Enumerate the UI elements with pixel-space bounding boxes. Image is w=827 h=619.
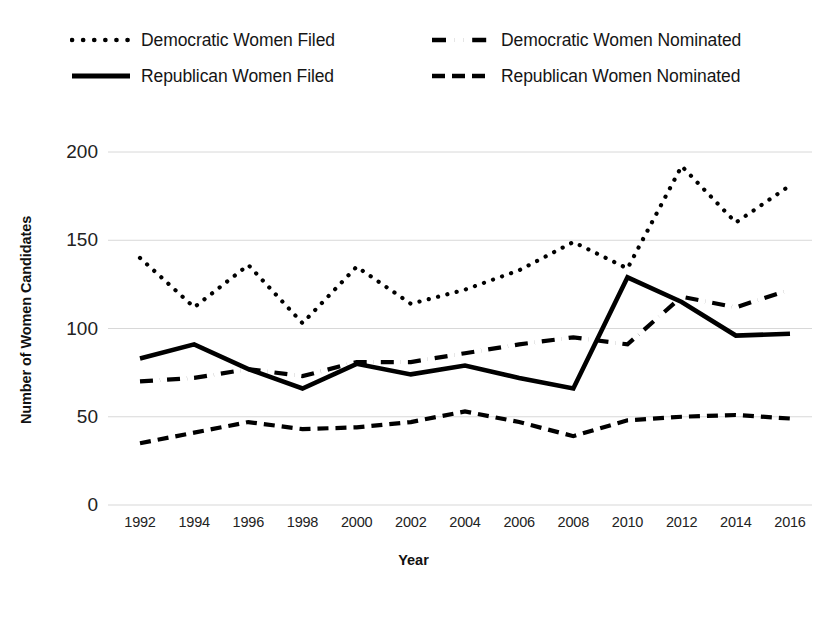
y-axis-title-text: Number of Women Candidates [18,216,34,424]
plot-area: Number of Women Candidates Year 20015010… [0,0,827,619]
y-tick-label: 150 [36,229,98,251]
x-tick-label: 2008 [543,514,603,530]
y-tick-label: 100 [36,318,98,340]
x-tick-label: 2016 [760,514,820,530]
y-tick-label: 50 [36,406,98,428]
x-axis-title: Year [0,552,827,568]
y-tick-label: 0 [36,494,98,516]
y-tick-label: 200 [36,141,98,163]
x-tick-label: 2004 [435,514,495,530]
chart-figure: Democratic Women Filed Democratic Women … [0,0,827,619]
series-line [140,411,790,443]
x-tick-label: 1994 [164,514,224,530]
x-tick-label: 2012 [652,514,712,530]
x-tick-label: 2010 [598,514,658,530]
y-axis-title: Number of Women Candidates [14,180,38,460]
x-tick-label: 2002 [381,514,441,530]
x-tick-label: 2006 [489,514,549,530]
x-tick-label: 1996 [218,514,278,530]
x-tick-label: 2014 [706,514,766,530]
x-tick-label: 1998 [273,514,333,530]
x-tick-label: 1992 [110,514,170,530]
series-line [140,277,790,388]
x-tick-label: 2000 [327,514,387,530]
